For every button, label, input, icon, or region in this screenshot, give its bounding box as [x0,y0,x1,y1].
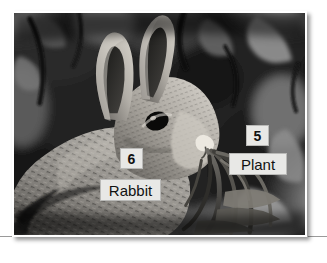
horizontal-rule-right [308,236,327,237]
annotation-label-6: 6 [120,148,143,169]
annotation-label-rabbit: Rabbit [100,179,161,201]
rabbit-photograph: 6 Rabbit 5 Plant [14,13,305,235]
annotation-label-plant: Plant [229,153,287,175]
photo-artwork [14,13,305,235]
annotation-label-5: 5 [246,125,269,146]
figure-frame: 6 Rabbit 5 Plant [12,11,307,237]
